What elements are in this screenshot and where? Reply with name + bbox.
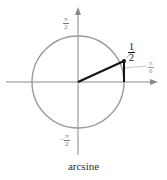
angle-leader-line	[124, 66, 147, 68]
fraction-numerator: π	[64, 133, 70, 140]
figure-caption: arcsine	[0, 160, 167, 172]
fraction-denominator: 2	[63, 23, 69, 31]
unit-circle-diagram	[0, 0, 167, 180]
angle-label-pi-over-6: π 6	[148, 60, 154, 75]
fraction-pi-over-2-top: π 2	[63, 16, 69, 31]
y-axis-tick-label-pi-over-2: π 2	[63, 16, 69, 31]
hypotenuse-segment	[78, 61, 124, 82]
fraction-one-half: 1 2	[128, 42, 135, 63]
sine-value-label-one-half: 1 2	[128, 42, 135, 63]
reference-triangle	[78, 59, 126, 82]
y-axis-arrow-icon	[75, 7, 81, 15]
fraction-denominator: 2	[128, 52, 135, 63]
terminal-point-marker	[122, 59, 126, 63]
fraction-numerator: 1	[128, 42, 135, 52]
arcsine-unit-circle-figure: π 2 − π 2 1 2 π 6 arcsine	[0, 0, 167, 180]
fraction-pi-over-6: π 6	[148, 60, 154, 75]
fraction-denominator: 2	[64, 140, 70, 148]
x-axis-arrow-icon	[150, 79, 158, 85]
fraction-numerator: π	[63, 16, 69, 23]
y-axis-tick-label-negative-pi-over-2: − π 2	[60, 133, 70, 148]
fraction-denominator: 6	[148, 67, 154, 75]
fraction-pi-over-2-bottom: π 2	[64, 133, 70, 148]
fraction-numerator: π	[148, 60, 154, 67]
